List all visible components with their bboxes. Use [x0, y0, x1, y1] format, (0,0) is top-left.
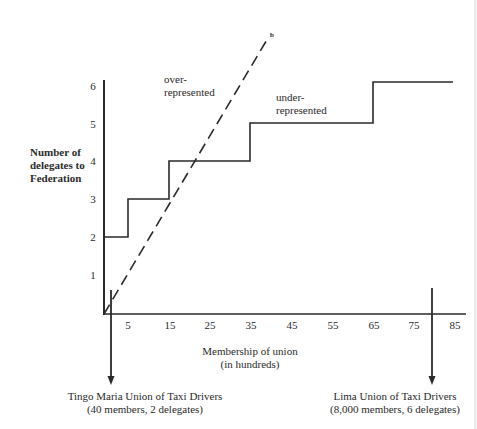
y-tick-1: 1 — [90, 269, 96, 281]
over-line-2: represented — [164, 86, 215, 99]
x-axis-label-line-2: (in hundreds) — [170, 358, 330, 371]
lima-line-2: (8,000 members, 6 delegates) — [310, 403, 477, 416]
x-tick-45: 45 — [287, 319, 299, 331]
tingo-maria-caption: Tingo Maria Union of Taxi Drivers (40 me… — [50, 390, 240, 416]
y-axis-label-line-1: Number of — [30, 146, 85, 159]
x-tick-65: 65 — [369, 319, 381, 331]
tingo-maria-arrowhead — [108, 376, 115, 385]
x-tick-15: 15 — [165, 319, 177, 331]
line-b-label: b — [270, 31, 274, 39]
y-axis-label-line-2: delegates to — [30, 159, 85, 172]
under-line-2: represented — [276, 104, 327, 117]
over-represented-annotation: over- represented — [164, 73, 215, 99]
x-tick-55: 55 — [328, 319, 340, 331]
lima-arrowhead — [429, 376, 436, 385]
y-tick-3: 3 — [90, 193, 96, 205]
y-tick-4: 4 — [90, 155, 96, 167]
under-represented-annotation: under- represented — [276, 91, 327, 117]
x-tick-5: 5 — [125, 319, 131, 331]
y-axis-label-line-3: Federation — [30, 172, 85, 185]
y-tick-2: 2 — [90, 231, 96, 243]
x-tick-25: 25 — [205, 319, 217, 331]
y-tick-5: 5 — [90, 118, 96, 130]
x-axis-label-line-1: Membership of union — [170, 345, 330, 358]
x-tick-75: 75 — [409, 319, 421, 331]
tingo-maria-line-1: Tingo Maria Union of Taxi Drivers — [50, 390, 240, 403]
lima-caption: Lima Union of Taxi Drivers (8,000 member… — [310, 390, 477, 416]
y-tick-6: 6 — [90, 80, 96, 92]
x-tick-35: 35 — [246, 319, 258, 331]
under-line-1: under- — [276, 91, 327, 104]
lima-line-1: Lima Union of Taxi Drivers — [310, 390, 477, 403]
y-axis-label: Number of delegates to Federation — [30, 146, 85, 185]
tingo-maria-line-2: (40 members, 2 delegates) — [50, 403, 240, 416]
x-axis-label: Membership of union (in hundreds) — [170, 345, 330, 371]
over-line-1: over- — [164, 73, 215, 86]
x-tick-85: 85 — [450, 319, 462, 331]
